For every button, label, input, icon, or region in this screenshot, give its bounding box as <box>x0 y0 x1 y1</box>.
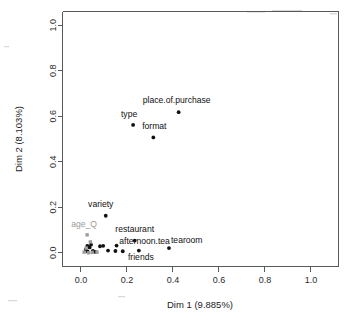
data-point <box>131 123 135 127</box>
data-point <box>167 246 171 250</box>
series-supplementary: age_Q <box>71 219 98 255</box>
y-tick-label: 0.6 <box>48 110 58 123</box>
point-label: format <box>142 121 167 131</box>
plot-frame <box>63 12 339 267</box>
data-point <box>89 240 92 243</box>
y-tick-label: 0.2 <box>48 201 58 214</box>
x-tick-label: 1.0 <box>305 275 318 285</box>
data-point <box>87 251 90 254</box>
data-point <box>98 244 102 248</box>
point-label: restaurant <box>115 224 154 234</box>
data-point <box>90 251 93 254</box>
point-label: variety <box>88 199 114 209</box>
y-tick-label: 0.8 <box>48 64 58 77</box>
data-points-layer: place.of.purchasetypeformatvarietyrestau… <box>71 95 211 261</box>
data-point <box>121 249 125 253</box>
data-point <box>82 250 85 253</box>
point-label: place.of.purchase <box>143 95 211 105</box>
data-point <box>106 249 110 253</box>
x-tick-label: 0.0 <box>75 275 88 285</box>
data-point <box>95 250 98 253</box>
x-tick-label: 0.8 <box>259 275 272 285</box>
scatter-plot-figure: 0.00.20.40.60.81.0 0.00.20.40.60.81.0 pl… <box>0 0 360 320</box>
y-tick-label: 1.0 <box>48 19 58 32</box>
plot-canvas: 0.00.20.40.60.81.0 0.00.20.40.60.81.0 pl… <box>0 0 360 320</box>
point-label: type <box>121 109 137 119</box>
data-point <box>177 110 181 114</box>
data-point <box>114 249 118 253</box>
data-point <box>151 136 155 140</box>
x-tick-label: 0.4 <box>167 275 180 285</box>
y-tick-label: 0.4 <box>48 156 58 169</box>
data-point <box>85 233 88 236</box>
data-point <box>115 244 119 248</box>
x-tick-label: 0.2 <box>121 275 134 285</box>
y-axis-title: Dim 2 (8.103%) <box>13 106 24 172</box>
x-axis-title: Dim 1 (9.885%) <box>167 299 233 310</box>
data-point <box>101 244 105 248</box>
x-tick-label: 0.6 <box>213 275 226 285</box>
point-label: afternoon.tea <box>119 236 170 246</box>
y-tick-label: 0.0 <box>48 247 58 260</box>
point-label: age_Q <box>71 219 97 229</box>
x-axis-ticks: 0.00.20.40.60.81.0 <box>75 267 318 285</box>
data-point <box>104 214 108 218</box>
point-label: tearoom <box>171 235 203 245</box>
data-point <box>84 246 87 249</box>
point-label: friends <box>128 252 154 262</box>
y-axis-ticks: 0.00.20.40.60.81.0 <box>48 19 63 259</box>
series-active: place.of.purchasetypeformatvarietyrestau… <box>84 95 211 261</box>
